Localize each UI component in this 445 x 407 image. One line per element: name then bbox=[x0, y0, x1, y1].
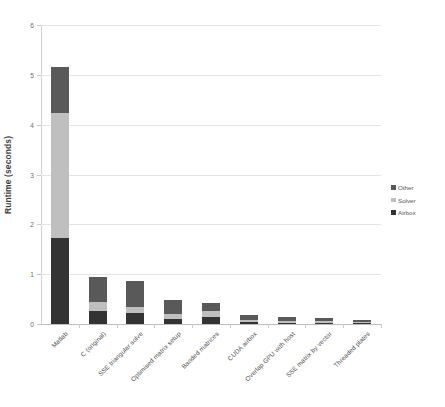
legend-item[interactable]: Airbox bbox=[391, 209, 416, 216]
legend-swatch-icon bbox=[391, 198, 396, 203]
legend-label: Other bbox=[398, 184, 413, 191]
chart-container: Runtime (seconds) 0123456 MatlabC (origi… bbox=[0, 0, 445, 407]
x-tick-mark bbox=[268, 324, 269, 328]
legend-item[interactable]: Other bbox=[391, 184, 416, 191]
x-axis-label: Banded matrices bbox=[180, 330, 220, 370]
legend-swatch-icon bbox=[391, 185, 396, 190]
x-tick-mark bbox=[343, 324, 344, 328]
x-tick-mark bbox=[305, 324, 306, 328]
x-axis-label: CUDA airbox bbox=[226, 330, 258, 362]
chart-legend: OtherSolverAirbox bbox=[391, 184, 416, 216]
legend-swatch-icon bbox=[391, 210, 396, 215]
x-tick-mark bbox=[154, 324, 155, 328]
x-tick-mark bbox=[230, 324, 231, 328]
legend-label: Solver bbox=[398, 197, 416, 204]
x-axis-labels: MatlabC (original)SSE triangular solveOp… bbox=[0, 0, 445, 407]
x-axis-label: Matlab bbox=[50, 330, 69, 349]
legend-item[interactable]: Solver bbox=[391, 197, 416, 204]
x-axis-label: Threaded plates bbox=[332, 330, 371, 369]
x-tick-mark bbox=[79, 324, 80, 328]
x-tick-mark bbox=[192, 324, 193, 328]
x-tick-mark bbox=[381, 324, 382, 328]
x-tick-mark bbox=[117, 324, 118, 328]
legend-label: Airbox bbox=[398, 209, 416, 216]
x-axis-label: C (original) bbox=[79, 330, 107, 358]
